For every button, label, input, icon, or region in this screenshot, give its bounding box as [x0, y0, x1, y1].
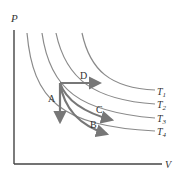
isotherm-label-t1: T1 — [157, 86, 166, 99]
isotherm-label-t3: T3 — [157, 113, 167, 126]
process-c-arrow — [60, 83, 112, 120]
isotherm-label-t2: T2 — [157, 99, 167, 112]
process-label-a: A — [48, 93, 56, 104]
process-label-c: C — [96, 104, 103, 115]
y-axis-label: P — [10, 12, 18, 24]
x-axis-label: V — [165, 159, 173, 170]
process-label-d: D — [80, 70, 87, 81]
process-label-b: B — [90, 119, 97, 130]
isotherm-t1 — [82, 33, 155, 90]
isotherm-label-t4: T4 — [157, 126, 167, 139]
pv-diagram: P V T1 T2 T3 T4 D A C B — [0, 0, 186, 179]
